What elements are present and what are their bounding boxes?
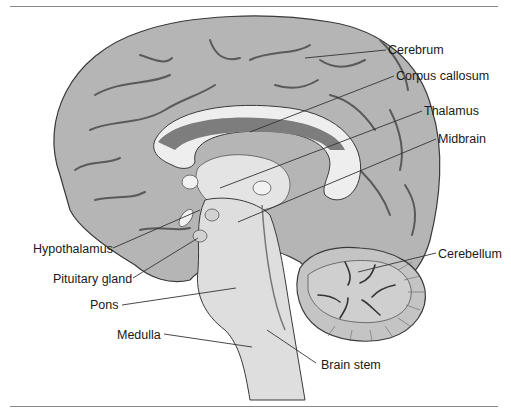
pineal-body [253, 181, 271, 195]
label-hypothalamus: Hypothalamus [33, 242, 113, 256]
label-cerebrum: Cerebrum [388, 43, 444, 57]
anterior-commissure [182, 175, 198, 189]
label-cerebellum: Cerebellum [438, 247, 502, 261]
brain-diagram [0, 0, 511, 415]
label-pons: Pons [90, 298, 119, 312]
label-midbrain: Midbrain [438, 132, 486, 146]
label-pituitary-gland: Pituitary gland [53, 272, 132, 286]
label-brain-stem: Brain stem [321, 358, 381, 372]
mammillary-body [205, 209, 219, 221]
label-corpus-callosum: Corpus callosum [396, 69, 489, 83]
label-thalamus: Thalamus [424, 104, 479, 118]
label-medulla: Medulla [117, 328, 161, 342]
